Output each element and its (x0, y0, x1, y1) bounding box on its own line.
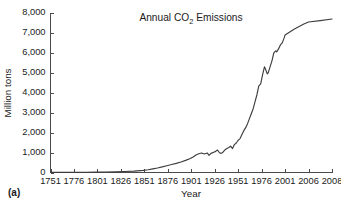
y-tick-label: 8,000 (22, 7, 45, 17)
y-axis-title: Million tons (2, 68, 13, 117)
chart-title-after: Emissions (193, 12, 242, 23)
co2-emissions-line-chart: 01,0002,0003,0004,0005,0006,0007,0008,00… (0, 0, 341, 224)
y-tick-label: 3,000 (22, 107, 45, 117)
x-tick-label: 1951 (228, 176, 249, 186)
y-tick-label: 5,000 (22, 67, 45, 77)
chart-title-before: Annual CO (139, 12, 189, 23)
x-tick-label: 1901 (181, 176, 202, 186)
y-tick-label: 6,000 (22, 47, 45, 57)
x-tick-label: 1976 (251, 176, 272, 186)
x-tick-label: 2001 (275, 176, 296, 186)
y-tick-label: 7,000 (22, 27, 45, 37)
y-tick-labels: 01,0002,0003,0004,0005,0006,0007,0008,00… (22, 7, 45, 177)
figure-panel: 01,0002,0003,0004,0005,0006,0007,0008,00… (0, 0, 341, 224)
x-tick-label: 1826 (111, 176, 132, 186)
y-tick-label: 2,000 (22, 127, 45, 137)
y-tick-label: 4,000 (22, 87, 45, 97)
x-tick-label: 1876 (157, 176, 178, 186)
x-tick-label: 2008 (322, 176, 341, 186)
x-tick-label: 2006 (298, 176, 319, 186)
x-tick-label: 1851 (134, 176, 155, 186)
x-axis-title: Year (181, 188, 202, 199)
x-tick-label: 1776 (64, 176, 85, 186)
x-tick-label: 1751 (40, 176, 61, 186)
x-tick-label: 1926 (204, 176, 225, 186)
y-tick-label: 1,000 (22, 147, 45, 157)
panel-label: (a) (8, 187, 20, 198)
x-tick-label: 1801 (87, 176, 108, 186)
